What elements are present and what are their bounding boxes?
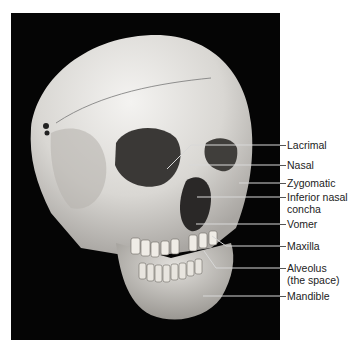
leader-maxilla [280, 246, 286, 247]
label-zygomatic: Zygomatic [287, 177, 335, 189]
label-nasal: Nasal [287, 159, 314, 171]
label-inferior-nasal-concha: Inferior nasal concha [287, 191, 348, 215]
skull-illustration [11, 13, 280, 340]
leader-alveolus [280, 268, 286, 269]
label-alveolus-line1: Alveolus [287, 262, 340, 274]
leader-lacrimal [280, 145, 286, 146]
label-alveolus: Alveolus (the space) [287, 262, 340, 286]
label-lacrimal: Lacrimal [287, 139, 327, 151]
label-alveolus-line2: (the space) [287, 274, 340, 286]
label-mandible: Mandible [287, 290, 330, 302]
label-inferior-nasal-line2: concha [287, 203, 348, 215]
leader-nasal [280, 165, 286, 166]
label-maxilla: Maxilla [287, 240, 320, 252]
leader-inferior-nasal-concha [280, 197, 286, 198]
skull-photo [11, 13, 280, 340]
leader-vomer [280, 224, 286, 225]
leader-mandible [280, 296, 286, 297]
leader-zygomatic [280, 183, 286, 184]
label-vomer: Vomer [287, 218, 317, 230]
label-inferior-nasal-line1: Inferior nasal [287, 191, 348, 203]
